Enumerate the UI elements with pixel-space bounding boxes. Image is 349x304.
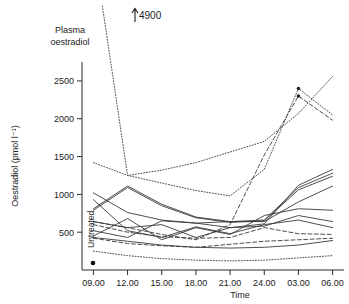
data-point-marker — [297, 94, 301, 98]
x-axis-title: Time — [230, 290, 250, 300]
series-subject-8 — [93, 209, 332, 240]
x-tick-label-12.00: 12.00 — [116, 278, 139, 288]
oestradiol-line-chart: 5001000150020002500 09.0012.0015.0018.00… — [0, 0, 349, 304]
figure-title-line2: oestradiol — [50, 37, 89, 47]
x-tick-label-06.00: 06.00 — [321, 278, 344, 288]
y-tick-label-2000: 2000 — [54, 114, 74, 124]
offscale-annotation-label: 4900 — [139, 10, 162, 21]
x-axis-ticks: 09.0012.0015.0018.0021.0024.0003.0006.00 — [82, 270, 344, 288]
x-tick-label-03.00: 03.00 — [287, 278, 310, 288]
series-subject-9 — [93, 216, 332, 238]
data-series-group — [93, 6, 332, 261]
data-point-marker — [297, 87, 301, 91]
chart-figure: 5001000150020002500 09.0012.0015.0018.00… — [0, 0, 349, 304]
x-tick-label-24.00: 24.00 — [253, 278, 276, 288]
y-tick-label-2500: 2500 — [54, 76, 74, 86]
offscale-arrow-icon — [132, 9, 138, 23]
y-tick-label-500: 500 — [59, 228, 74, 238]
series-subject-7 — [93, 186, 332, 237]
x-tick-label-15.00: 15.00 — [150, 278, 173, 288]
y-tick-label-1000: 1000 — [54, 190, 74, 200]
figure-title-line1: Plasma — [55, 25, 85, 35]
x-tick-label-18.00: 18.00 — [185, 278, 208, 288]
data-point-markers — [297, 87, 301, 98]
untreated-marker-point — [91, 261, 96, 266]
series-subject-3 — [93, 96, 332, 240]
x-tick-label-21.00: 21.00 — [219, 278, 242, 288]
series-subject-13 — [93, 251, 332, 261]
series-subject-5 — [93, 173, 332, 221]
series-subject-6 — [93, 176, 332, 222]
x-tick-label-09.00: 09.00 — [82, 278, 105, 288]
axes: 5001000150020002500 09.0012.0015.0018.00… — [54, 62, 344, 288]
series-subject-12 — [93, 237, 332, 248]
series-subject-1 — [102, 6, 332, 175]
series-subject-2 — [93, 88, 332, 195]
y-tick-label-1500: 1500 — [54, 152, 74, 162]
y-axis-title: Oestradiol (pmol l⁻¹) — [10, 125, 20, 207]
series-subject-11 — [93, 238, 332, 247]
untreated-label: Untreated — [86, 210, 96, 248]
y-axis-ticks: 5001000150020002500 — [54, 76, 82, 237]
